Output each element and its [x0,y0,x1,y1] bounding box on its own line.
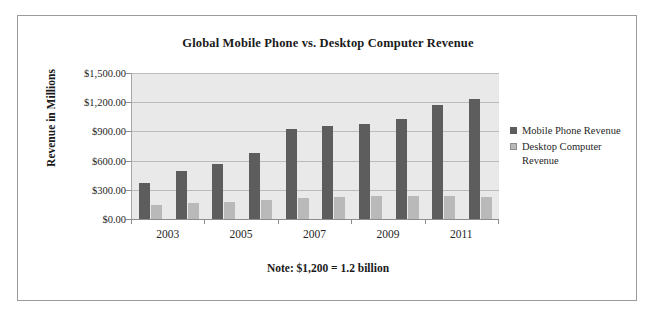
x-tick-mark [351,219,352,224]
gridline [132,161,499,162]
bar-mobile-2011 [432,105,443,219]
bar-desktop-2007 [298,198,309,219]
x-tick-label: 2009 [358,228,418,240]
y-tick-label: $1,200.00 [30,97,126,108]
x-tick-label: 2011 [431,228,491,240]
y-tick-label: $600.00 [30,155,126,166]
bar-desktop-2011 [444,196,455,219]
bar-desktop-2008 [334,197,345,219]
chart-note: Note: $1,200 = 1.2 billion [18,262,638,274]
y-tick-mark [126,73,131,74]
gridline [132,190,499,191]
bar-desktop-2010 [408,196,419,219]
gridline [132,131,499,132]
legend-label-desktop: Desktop Computer Revenue [522,141,602,165]
x-tick-mark [204,219,205,224]
bar-mobile-2009 [359,124,370,219]
legend-item-desktop-computer-revenue: Desktop Computer Revenue [510,140,634,167]
y-tick-mark [126,161,131,162]
bar-mobile-2004 [176,171,187,219]
legend-item-mobile-phone-revenue: Mobile Phone Revenue [510,124,634,137]
x-tick-mark [425,219,426,224]
y-tick-label: $1,500.00 [30,68,126,79]
x-tick-mark [278,219,279,224]
y-tick-label: $900.00 [30,126,126,137]
chart-frame: Global Mobile Phone vs. Desktop Computer… [17,15,637,301]
x-tick-label: 2007 [285,228,345,240]
x-tick-label: 2003 [138,228,198,240]
gridline [132,73,499,74]
gridline [132,102,499,103]
bar-mobile-2012 [469,99,480,219]
bar-mobile-2008 [322,126,333,219]
y-tick-mark [126,190,131,191]
y-axis-tick-labels: $0.00$300.00$600.00$900.00$1,200.00$1,50… [26,16,126,302]
y-tick-label: $300.00 [30,184,126,195]
bar-mobile-2007 [286,129,297,219]
x-axis-line [131,219,499,220]
x-tick-mark [498,219,499,224]
bar-desktop-2004 [188,203,199,219]
legend-swatch-icon-desktop [510,143,517,150]
bar-mobile-2006 [249,153,260,219]
bar-mobile-2003 [139,183,150,219]
bar-desktop-2006 [261,200,272,219]
x-tick-label: 2005 [211,228,271,240]
x-tick-mark [131,219,132,224]
bar-mobile-2005 [212,164,223,219]
bar-desktop-2009 [371,196,382,219]
bar-desktop-2003 [151,205,162,219]
bar-desktop-2012 [481,197,492,219]
y-tick-mark [126,131,131,132]
bar-mobile-2010 [396,119,407,219]
legend-label-mobile: Mobile Phone Revenue [522,125,621,136]
legend-swatch-icon-mobile [510,127,517,134]
plot-area [131,73,499,219]
bar-desktop-2005 [224,202,235,219]
y-tick-mark [126,102,131,103]
chart-legend: Mobile Phone Revenue Desktop Computer Re… [510,124,634,170]
y-tick-label: $0.00 [30,214,126,225]
